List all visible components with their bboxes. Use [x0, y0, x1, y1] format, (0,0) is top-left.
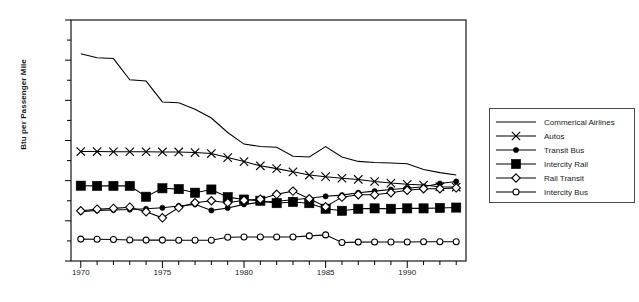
legend-marker-filled-square-icon — [494, 157, 538, 171]
data-point-marker-filled-circle — [160, 205, 165, 210]
data-point-marker-open-diamond — [207, 197, 215, 205]
data-point-marker-open-circle — [306, 233, 312, 239]
series-line — [81, 188, 456, 218]
legend-label: Intercity Bus — [544, 188, 588, 197]
data-point-marker-filled-square — [337, 206, 346, 215]
data-point-marker-filled-square — [272, 199, 281, 208]
data-point-marker-filled-square — [354, 204, 363, 213]
data-point-marker-x — [223, 153, 231, 161]
data-point-marker-filled-square — [419, 204, 428, 213]
data-point-marker-filled-square — [452, 203, 461, 212]
data-point-marker-filled-circle — [513, 147, 518, 152]
data-point-marker-x — [289, 168, 297, 176]
chart-legend: Commerical AirlinesAutosTransit BusInter… — [489, 108, 635, 203]
data-point-marker-filled-square — [174, 185, 183, 194]
legend-item-intercity-rail[interactable]: Intercity Rail — [494, 157, 634, 171]
data-point-marker-filled-square — [386, 204, 395, 213]
legend-marker-open-circle-icon — [494, 185, 538, 199]
legend-marker-none-icon — [494, 115, 538, 129]
data-point-marker-open-diamond — [77, 207, 85, 215]
data-point-marker-open-circle — [241, 234, 247, 240]
data-point-marker-filled-square — [370, 204, 379, 213]
data-point-marker-filled-circle — [323, 194, 328, 199]
legend-item-rail-transit[interactable]: Rail Transit — [494, 171, 634, 185]
data-point-marker-open-circle — [355, 239, 361, 245]
legend-label: Autos — [544, 132, 564, 141]
series-commerical-airlines — [81, 54, 456, 175]
legend-label: Commerical Airlines — [544, 118, 615, 127]
data-point-marker-filled-square — [435, 203, 444, 212]
data-point-marker-open-circle — [339, 240, 345, 246]
series-line — [81, 235, 456, 243]
data-point-marker-open-circle — [290, 234, 296, 240]
data-point-marker-open-circle — [192, 237, 198, 243]
data-point-marker-open-circle — [421, 239, 427, 245]
data-point-marker-filled-square — [511, 159, 520, 168]
series-line — [81, 54, 456, 175]
legend-marker-open-diamond-icon — [494, 171, 538, 185]
data-point-marker-open-circle — [453, 239, 459, 245]
series-intercity-bus — [78, 232, 459, 246]
data-point-marker-open-circle — [225, 234, 231, 240]
data-point-marker-filled-square — [76, 181, 85, 190]
legend-label: Intercity Rail — [544, 160, 588, 169]
legend-marker-filled-circle-icon — [494, 143, 538, 157]
data-point-marker-open-circle — [274, 234, 280, 240]
data-point-marker-open-circle — [388, 239, 394, 245]
data-point-marker-open-circle — [94, 236, 100, 242]
data-point-marker-filled-square — [288, 197, 297, 206]
legend-item-autos[interactable]: Autos — [494, 129, 634, 143]
data-point-marker-open-circle — [78, 236, 84, 242]
data-point-marker-filled-square — [190, 188, 199, 197]
data-point-marker-open-circle — [323, 232, 329, 238]
data-point-marker-filled-square — [141, 192, 150, 201]
data-point-marker-filled-square — [93, 181, 102, 190]
series-line — [81, 152, 456, 188]
data-point-marker-filled-square — [109, 181, 118, 190]
data-point-marker-open-circle — [110, 237, 116, 243]
data-point-marker-open-diamond — [289, 187, 297, 195]
legend-label: Transit Bus — [544, 146, 584, 155]
data-point-marker-open-circle — [437, 239, 443, 245]
data-point-marker-open-diamond — [436, 185, 444, 193]
series-line — [81, 186, 456, 211]
legend-label: Rail Transit — [544, 174, 584, 183]
data-point-marker-open-circle — [159, 237, 165, 243]
data-point-marker-open-diamond — [175, 203, 183, 211]
data-point-marker-filled-square — [403, 204, 412, 213]
legend-item-commerical-airlines[interactable]: Commerical Airlines — [494, 115, 634, 129]
data-point-marker-filled-square — [158, 184, 167, 193]
legend-item-transit-bus[interactable]: Transit Bus — [494, 143, 634, 157]
data-point-marker-filled-square — [125, 181, 134, 190]
data-point-marker-open-circle — [143, 237, 149, 243]
series-intercity-rail — [76, 181, 461, 215]
data-point-marker-open-diamond — [354, 191, 362, 199]
data-point-marker-open-circle — [404, 239, 410, 245]
data-point-marker-open-circle — [513, 189, 519, 195]
plot-frame — [71, 20, 466, 261]
data-point-marker-open-diamond — [512, 174, 520, 182]
data-point-marker-open-diamond — [272, 190, 280, 198]
legend-marker-x-icon — [494, 129, 538, 143]
legend-item-intercity-bus[interactable]: Intercity Bus — [494, 185, 634, 199]
data-point-marker-open-circle — [176, 237, 182, 243]
data-point-marker-open-diamond — [109, 204, 117, 212]
data-point-marker-open-diamond — [93, 205, 101, 213]
data-point-marker-filled-square — [207, 185, 216, 194]
data-point-marker-open-circle — [208, 237, 214, 243]
data-point-marker-open-diamond — [158, 214, 166, 222]
data-point-marker-open-diamond — [452, 184, 460, 192]
chart-figure: Btu per Passenger Mile 02,0004,0006,0008… — [0, 0, 639, 302]
data-point-marker-open-circle — [372, 239, 378, 245]
data-point-marker-filled-circle — [209, 208, 214, 213]
data-point-marker-x — [240, 157, 248, 165]
data-point-marker-open-circle — [257, 234, 263, 240]
data-point-marker-open-circle — [127, 237, 133, 243]
